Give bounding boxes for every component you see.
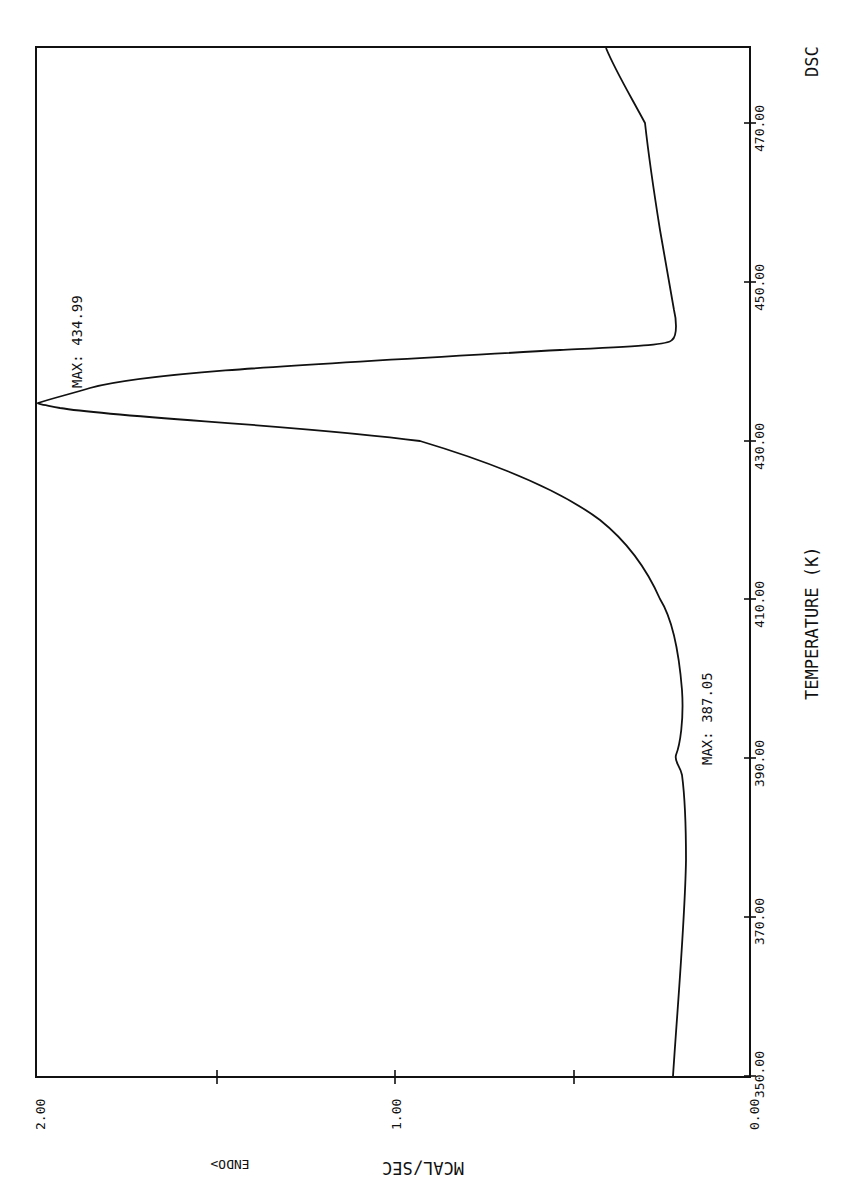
svg-text:0.00: 0.00 <box>747 1099 762 1130</box>
svg-text:390.00: 390.00 <box>752 740 767 787</box>
peak-annotation-434: MAX: 434.99 <box>69 295 85 388</box>
plot-frame <box>36 47 750 1077</box>
dsc-chart: MAX: 434.99 MAX: 387.05 350.00 370.00 39… <box>0 0 859 1196</box>
peak-annotation-387: MAX: 387.05 <box>699 672 715 765</box>
svg-text:350.00: 350.00 <box>752 1051 767 1098</box>
svg-text:470.00: 470.00 <box>752 105 767 152</box>
dsc-curve <box>38 48 686 1076</box>
svg-text:370.00: 370.00 <box>752 898 767 945</box>
svg-text:450.00: 450.00 <box>752 264 767 311</box>
y-axis-title: MCAL/SEC <box>382 1158 464 1178</box>
x-axis-title: TEMPERATURE (K) <box>802 546 822 700</box>
endo-direction-label: ENDO> <box>210 1157 249 1172</box>
power-tick-labels: 0.00 1.00 2.00 <box>33 1099 762 1130</box>
svg-text:2.00: 2.00 <box>33 1099 48 1130</box>
temperature-tick-labels: 350.00 370.00 390.00 410.00 430.00 450.0… <box>752 105 767 1098</box>
svg-text:410.00: 410.00 <box>752 581 767 628</box>
svg-text:430.00: 430.00 <box>752 423 767 470</box>
svg-text:1.00: 1.00 <box>389 1099 404 1130</box>
chart-title: DSC <box>802 46 822 77</box>
